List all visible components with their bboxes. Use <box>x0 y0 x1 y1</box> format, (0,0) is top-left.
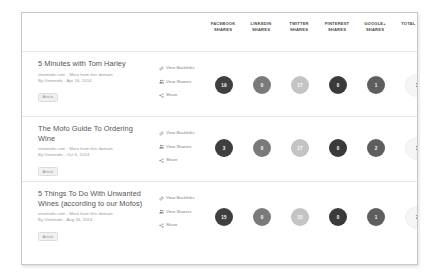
view-backlinks-button[interactable]: View Backlinks <box>159 65 207 71</box>
article-byline: By Vinomofo - Apr 16, 2014 <box>38 78 143 84</box>
column-header-line1: TOTAL SHARES <box>395 21 418 27</box>
row-actions: View Backlinks View Sharers Share <box>159 65 207 106</box>
metric-googleplus-shares: 1 <box>367 76 385 94</box>
share-label: Share <box>166 157 177 163</box>
content-type-badge: Article <box>38 167 58 176</box>
share-icon <box>159 223 164 228</box>
metric-twitter-shares: 27 <box>291 139 309 157</box>
link-icon <box>159 66 164 71</box>
users-icon <box>159 144 164 149</box>
column-header-line1: FACEBOOK <box>206 21 240 27</box>
table-header: FACEBOOK SHARES LINKEDIN SHARES TWITTER … <box>22 13 417 51</box>
column-header-total-shares[interactable]: TOTAL SHARES <box>395 21 418 27</box>
view-sharers-button[interactable]: View Sharers <box>159 144 207 150</box>
view-backlinks-label: View Backlinks <box>166 130 195 136</box>
share-metrics: 3 0 27 0 2 32 <box>207 117 418 182</box>
article-info: The Mofo Guide To Ordering Wine vinomofo… <box>38 124 143 177</box>
article-byline: By Vinomofo - Oct 6, 2014 <box>38 152 143 158</box>
share-button[interactable]: Share <box>159 92 207 98</box>
metric-linkedin-shares: 0 <box>253 139 271 157</box>
content-type-badge: Article <box>38 93 58 102</box>
view-backlinks-label: View Backlinks <box>166 195 195 201</box>
metric-pinterest-shares: 0 <box>329 139 347 157</box>
metric-total-shares: 37 <box>405 74 418 97</box>
metric-total-shares: 31 <box>405 206 418 229</box>
metric-facebook-shares: 3 <box>215 139 233 157</box>
table-row: The Mofo Guide To Ordering Wine vinomofo… <box>22 116 417 182</box>
share-button[interactable]: Share <box>159 222 207 228</box>
users-icon <box>159 209 164 214</box>
content-type-badge: Article <box>38 232 58 241</box>
view-backlinks-button[interactable]: View Backlinks <box>159 130 207 136</box>
share-label: Share <box>166 222 177 228</box>
view-sharers-button[interactable]: View Sharers <box>159 209 207 215</box>
article-title[interactable]: 5 Things To Do With Unwanted Wines (acco… <box>38 189 143 208</box>
table-row: 5 Things To Do With Unwanted Wines (acco… <box>22 181 417 255</box>
metric-facebook-shares: 15 <box>215 208 233 226</box>
metric-linkedin-shares: 0 <box>253 208 271 226</box>
article-title[interactable]: The Mofo Guide To Ordering Wine <box>38 124 143 143</box>
view-sharers-label: View Sharers <box>166 144 191 150</box>
metric-linkedin-shares: 0 <box>253 76 271 94</box>
metric-googleplus-shares: 2 <box>367 139 385 157</box>
link-icon <box>159 196 164 201</box>
column-header-line2: SHARES <box>282 27 316 33</box>
users-icon <box>159 79 164 84</box>
shares-table-card: FACEBOOK SHARES LINKEDIN SHARES TWITTER … <box>21 12 418 265</box>
share-icon <box>159 93 164 98</box>
metric-pinterest-shares: 0 <box>329 76 347 94</box>
column-header-line2: SHARES <box>244 27 278 33</box>
share-metrics: 19 0 17 0 1 37 <box>207 52 418 117</box>
view-backlinks-label: View Backlinks <box>166 65 195 71</box>
column-header-line1: PINTEREST <box>320 21 354 27</box>
column-header-line2: SHARES <box>358 27 392 33</box>
article-title[interactable]: 5 Minutes with Tom Harley <box>38 59 143 69</box>
share-button[interactable]: Share <box>159 157 207 163</box>
share-icon <box>159 158 164 163</box>
article-info: 5 Minutes with Tom Harley vinomofo.com -… <box>38 59 143 102</box>
table-row: 5 Minutes with Tom Harley vinomofo.com -… <box>22 51 417 117</box>
metric-facebook-shares: 19 <box>215 76 233 94</box>
page-root: FACEBOOK SHARES LINKEDIN SHARES TWITTER … <box>0 0 439 280</box>
column-header-pinterest-shares[interactable]: PINTEREST SHARES <box>320 21 354 32</box>
column-header-facebook-shares[interactable]: FACEBOOK SHARES <box>206 21 240 32</box>
column-header-googleplus-shares[interactable]: GOOGLE+ SHARES <box>358 21 392 32</box>
view-backlinks-button[interactable]: View Backlinks <box>159 195 207 201</box>
view-sharers-label: View Sharers <box>166 209 191 215</box>
column-header-linkedin-shares[interactable]: LINKEDIN SHARES <box>244 21 278 32</box>
column-header-line2: SHARES <box>320 27 354 33</box>
metric-twitter-shares: 15 <box>291 208 309 226</box>
view-sharers-label: View Sharers <box>166 79 191 85</box>
metric-pinterest-shares: 0 <box>329 208 347 226</box>
column-header-twitter-shares[interactable]: TWITTER SHARES <box>282 21 316 32</box>
metric-total-shares: 32 <box>405 137 418 160</box>
link-icon <box>159 131 164 136</box>
metric-googleplus-shares: 1 <box>367 208 385 226</box>
view-sharers-button[interactable]: View Sharers <box>159 79 207 85</box>
share-metrics: 15 0 15 0 1 31 <box>207 182 418 255</box>
column-header-line2: SHARES <box>206 27 240 33</box>
article-byline: By Vinomofo - Aug 26, 2014 <box>38 217 143 223</box>
metric-twitter-shares: 17 <box>291 76 309 94</box>
share-label: Share <box>166 92 177 98</box>
row-actions: View Backlinks View Sharers Share <box>159 195 207 236</box>
row-actions: View Backlinks View Sharers Share <box>159 130 207 171</box>
article-info: 5 Things To Do With Unwanted Wines (acco… <box>38 189 143 242</box>
